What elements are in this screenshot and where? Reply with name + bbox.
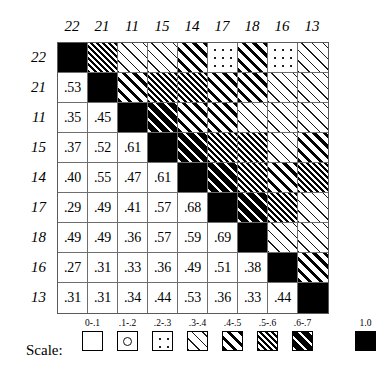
row-header: 17 [10, 192, 52, 222]
row-header: 11 [10, 102, 52, 132]
matrix-row: .49.49.36.57.59.69 [58, 223, 328, 253]
matrix-cell-shaded [118, 73, 148, 103]
column-header: 16 [267, 14, 297, 38]
legend-item: .1-.2 [113, 318, 142, 351]
matrix-cell-value: .59 [178, 223, 208, 253]
cell-value-text: .36 [118, 223, 147, 252]
matrix-cell-shaded [148, 103, 178, 133]
legend-item-label: .2-.3 [154, 318, 171, 329]
cell-value-text: .31 [58, 283, 87, 313]
matrix-cell-shaded [58, 43, 88, 73]
matrix-cell-shaded [178, 133, 208, 163]
column-header: 21 [87, 14, 117, 38]
cell-value-text: .34 [118, 283, 147, 313]
legend-swatch-dense-diagonal [257, 331, 278, 351]
legend-item-label: .5-.6 [259, 318, 276, 329]
matrix-cell-shaded [178, 163, 208, 193]
matrix-cell-shaded [298, 73, 328, 103]
cell-value-text: .51 [208, 253, 237, 282]
legend-item: .4-.5 [218, 318, 247, 351]
matrix-cell-shaded [268, 223, 298, 253]
matrix-cell-shaded [268, 193, 298, 223]
matrix-cell-shaded [298, 103, 328, 133]
matrix-cell-value: .55 [88, 163, 118, 193]
cell-value-text: .61 [118, 133, 147, 162]
matrix-cell-value: .51 [208, 253, 238, 283]
cell-value-text: .41 [118, 193, 147, 222]
matrix-cell-shaded [88, 73, 118, 103]
row-header: 16 [10, 252, 52, 282]
cell-value-text: .27 [58, 253, 87, 282]
matrix-cell-shaded [118, 43, 148, 73]
cell-value-text: .59 [178, 223, 207, 252]
cell-value-text: .68 [178, 193, 207, 222]
matrix-cell-value: .57 [148, 193, 178, 223]
legend-item-label: 0-.1 [85, 318, 100, 329]
legend-item: .5-.6 [253, 318, 282, 351]
column-header: 18 [237, 14, 267, 38]
matrix-cell-shaded [238, 73, 268, 103]
cell-value-text: .49 [88, 223, 117, 252]
cell-value-text: .53 [178, 283, 207, 313]
legend-item: .3-.4 [183, 318, 212, 351]
legend-item: .2-.3 [148, 318, 177, 351]
matrix-cell-shaded [268, 43, 298, 73]
matrix-cell-value: .49 [88, 223, 118, 253]
matrix-cell-shaded [298, 133, 328, 163]
cell-value-text: .36 [208, 283, 237, 313]
matrix-cell-value: .47 [118, 163, 148, 193]
row-label-column: 222111151417181613 [10, 42, 52, 312]
legend-item-label: .3-.4 [189, 318, 206, 329]
matrix-cell-value: .49 [178, 253, 208, 283]
matrix-row: .53 [58, 73, 328, 103]
legend-item-label: .1-.2 [119, 318, 136, 329]
cell-value-text: .55 [88, 163, 117, 192]
matrix-grid: .53.35.45.37.52.61.40.55.47.61.29.49.41.… [57, 42, 329, 314]
matrix-cell-value: .69 [208, 223, 238, 253]
matrix-cell-shaded [208, 43, 238, 73]
matrix-cell-shaded [208, 133, 238, 163]
matrix-cell-value: .36 [118, 223, 148, 253]
matrix-cell-shaded [268, 133, 298, 163]
column-header: 15 [147, 14, 177, 38]
cell-value-text: .31 [88, 283, 117, 313]
matrix-cell-shaded [118, 103, 148, 133]
legend-swatch-sparse-dots [152, 331, 173, 351]
cell-value-text: .36 [148, 253, 177, 282]
matrix-cell-shaded [298, 283, 328, 313]
scale-legend: Scale: 0-.1.1-.2.2-.3.3-.4.4-.5.5-.6.6-.… [16, 318, 336, 368]
column-header-row: 222111151417181613 [57, 14, 327, 38]
matrix-cell-value: .61 [118, 133, 148, 163]
matrix-cell-value: .36 [148, 253, 178, 283]
matrix-cell-value: .27 [58, 253, 88, 283]
matrix-cell-value: .68 [178, 193, 208, 223]
matrix-cell-shaded [238, 43, 268, 73]
cell-value-text: .38 [238, 253, 267, 282]
matrix-cell-shaded [238, 223, 268, 253]
cell-value-text: .45 [88, 103, 117, 132]
matrix-cell-shaded [208, 193, 238, 223]
legend-items: 0-.1.1-.2.2-.3.3-.4.4-.5.5-.6.6-.71.0 [78, 318, 380, 351]
matrix-cell-value: .41 [118, 193, 148, 223]
matrix-cell-shaded [238, 163, 268, 193]
row-header: 14 [10, 162, 52, 192]
cell-value-text: .35 [58, 103, 87, 132]
matrix-cell-shaded [148, 133, 178, 163]
column-header: 22 [57, 14, 87, 38]
matrix-cell-shaded [208, 163, 238, 193]
cell-value-text: .49 [178, 253, 207, 282]
cell-value-text: .53 [58, 73, 87, 102]
matrix-cell-value: .49 [88, 193, 118, 223]
matrix-row: .35.45 [58, 103, 328, 133]
matrix-cell-value: .61 [148, 163, 178, 193]
legend-swatch-solid-black [355, 331, 376, 351]
matrix-cell-value: .31 [58, 283, 88, 313]
legend-item: 0-.1 [78, 318, 107, 351]
matrix-cell-value: .52 [88, 133, 118, 163]
matrix-cell-value: .31 [88, 253, 118, 283]
matrix-cell-shaded [298, 253, 328, 283]
column-header: 17 [207, 14, 237, 38]
matrix-cell-value: .44 [268, 283, 298, 313]
legend-item-label: .6-.7 [294, 318, 311, 329]
matrix-cell-value: .37 [58, 133, 88, 163]
